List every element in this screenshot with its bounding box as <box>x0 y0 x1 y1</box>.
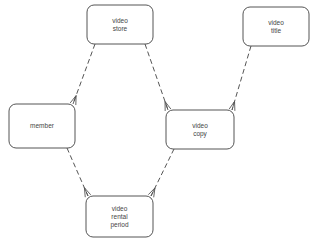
crows-foot-icon <box>70 96 76 105</box>
relationship-line <box>73 44 95 104</box>
relationship-video_copy-video_rental_period <box>148 149 174 197</box>
relationship-video_store-member <box>70 44 95 105</box>
entity-label: video <box>112 205 128 212</box>
entity-video-rental-period[interactable]: videorentalperiod <box>86 196 153 237</box>
entity-label: member <box>30 122 55 129</box>
relationship-video_store-video_copy <box>145 44 171 111</box>
er-diagram: videostorevideotitlemembervideocopyvideo… <box>0 0 315 240</box>
entity-label: store <box>113 25 128 32</box>
entity-label: period <box>110 221 128 229</box>
entity-label: rental <box>111 213 128 220</box>
relationship-line <box>145 44 168 110</box>
relationship-video_title-video_copy <box>229 46 251 111</box>
crows-foot-icon <box>165 102 171 111</box>
entity-label: video <box>112 17 128 24</box>
entity-label: video <box>192 122 208 129</box>
entity-label: video <box>268 19 284 26</box>
entity-video-copy[interactable]: videocopy <box>166 110 234 149</box>
crows-foot-icon <box>84 188 90 197</box>
entity-label: copy <box>193 130 207 138</box>
relationship-line <box>232 46 251 110</box>
crows-foot-icon <box>229 101 235 110</box>
entity-label: title <box>271 27 282 34</box>
entity-video-store[interactable]: videostore <box>87 5 153 44</box>
entity-video-title[interactable]: videotitle <box>243 7 309 46</box>
relationship-member-video_rental_period <box>67 148 91 197</box>
entity-member[interactable]: member <box>9 104 75 148</box>
crows-foot-icon <box>148 188 155 197</box>
